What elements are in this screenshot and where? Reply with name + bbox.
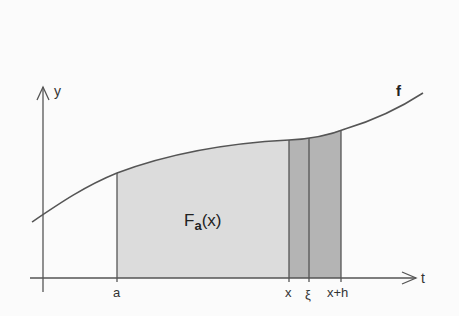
area-fa-x (117, 140, 289, 278)
area-label-subscript: a (194, 218, 201, 233)
tick-label-x-plus-h: x+h (327, 286, 348, 299)
area-label-argument: (x) (202, 211, 222, 230)
area-label-main: F (184, 211, 194, 230)
area-label: Fa(x) (184, 212, 221, 232)
tick-label-a: a (113, 286, 120, 299)
y-axis-label: y (54, 84, 61, 98)
strip-x-to-xh (289, 130, 341, 278)
t-axis-label: t (421, 271, 425, 285)
tick-label-xi: ξ (305, 288, 311, 301)
function-label: f (396, 83, 401, 98)
tick-label-x: x (285, 286, 292, 299)
integral-diagram (0, 0, 459, 316)
